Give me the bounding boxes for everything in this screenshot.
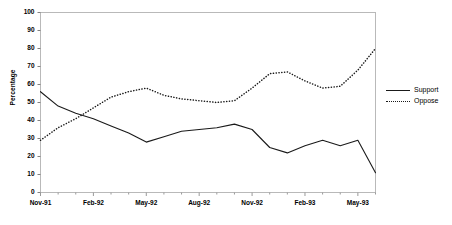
legend-item-support[interactable]: Support [385,84,447,95]
plot-area [0,0,452,225]
x-tick-label: Nov-92 [226,200,278,207]
y-tick-label: 20 [15,153,35,160]
y-tick-label: 50 [15,99,35,106]
y-tick-label: 100 [15,9,35,16]
x-tick-label: May-93 [332,200,384,207]
legend-line-swatch-dotted [385,97,411,105]
x-tick-label: Feb-92 [67,200,119,207]
y-tick-label: 0 [15,189,35,196]
x-tick-label: May-92 [120,200,172,207]
y-tick-label: 30 [15,135,35,142]
legend-label: Support [411,86,439,93]
data-series-group [41,49,376,173]
y-tick-label: 70 [15,63,35,70]
legend-line-swatch-solid [385,86,411,94]
axes [38,13,376,197]
legend-label: Oppose [411,97,439,104]
x-tick-label: Nov-91 [15,200,67,207]
series-line-support [41,92,376,173]
y-tick-label: 60 [15,81,35,88]
y-tick-label: 90 [15,27,35,34]
legend-item-oppose[interactable]: Oppose [385,95,447,106]
series-line-oppose [41,49,376,141]
x-tick-label: Aug-92 [173,200,225,207]
x-tick-label: Feb-93 [279,200,331,207]
y-tick-label: 80 [15,45,35,52]
y-tick-label: 40 [15,117,35,124]
plot-border [41,13,376,193]
chart-legend: SupportOppose [385,84,447,106]
y-tick-label: 10 [15,171,35,178]
line-chart: Percentage 0102030405060708090100 Nov-91… [0,0,452,225]
